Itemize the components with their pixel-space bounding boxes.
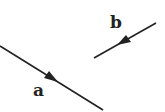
label-b: b <box>110 14 122 31</box>
vector-b-arrow-icon <box>117 35 131 45</box>
vector-diagram: a b <box>0 0 165 112</box>
label-a: a <box>33 82 44 99</box>
vectors-canvas <box>0 0 165 112</box>
vector-a-arrow-icon <box>44 71 58 82</box>
